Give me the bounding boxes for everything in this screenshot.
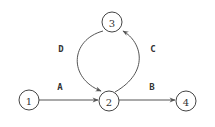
edge-d-arrow xyxy=(77,31,103,91)
graph-diagram: A B C D 1 2 3 4 xyxy=(0,0,215,127)
edge-d-label: D xyxy=(58,44,64,54)
node-4-label: 4 xyxy=(183,97,189,108)
edge-b: B xyxy=(119,82,175,100)
edge-d: D xyxy=(58,31,103,91)
edge-c-label: C xyxy=(150,44,155,54)
node-2-label: 2 xyxy=(106,97,112,108)
node-4: 4 xyxy=(176,91,196,111)
node-3-label: 3 xyxy=(109,18,115,29)
node-3: 3 xyxy=(102,12,122,32)
edge-a-label: A xyxy=(57,82,63,92)
node-2: 2 xyxy=(99,91,119,111)
node-1: 1 xyxy=(19,90,39,110)
edge-c-arrow xyxy=(115,31,139,92)
node-1-label: 1 xyxy=(26,96,32,107)
edge-b-label: B xyxy=(149,82,155,92)
